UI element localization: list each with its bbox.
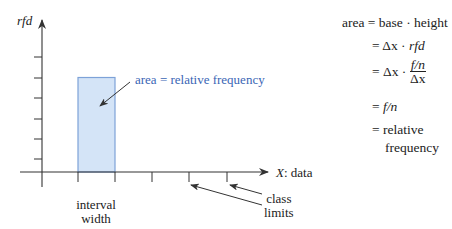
fraction: f/nΔx — [410, 58, 426, 85]
class-limit-arrow-1 — [191, 185, 262, 205]
interval-width-line2: width — [72, 212, 120, 226]
x-axis-label-rest: : data — [284, 165, 313, 180]
equation-lhs: area — [342, 15, 364, 30]
equation-row-1: area = base · height — [342, 15, 448, 31]
x-axis-ticks — [78, 172, 227, 182]
equation-base-height: base · height — [379, 15, 448, 30]
x-axis-label-var: X — [276, 165, 284, 180]
class-limits-label: class limits — [264, 192, 294, 220]
area-annotation: area = relative frequency — [135, 73, 265, 87]
class-limits-line2: limits — [264, 206, 294, 220]
interval-width-label: interval width — [72, 198, 120, 226]
x-axis-label: X: data — [276, 166, 312, 180]
equation-row-3: = Δx · f/nΔx — [372, 58, 426, 85]
histogram-bar — [78, 78, 115, 173]
class-limit-arrow-2 — [230, 185, 262, 194]
y-axis-ticks — [34, 57, 42, 159]
equation-row-6: frequency — [385, 140, 439, 156]
y-axis-label: rfd — [17, 14, 32, 28]
equation-row-2: = Δx · rfd — [372, 38, 425, 54]
interval-width-line1: interval — [72, 198, 120, 212]
equation-row-4: = f/n — [372, 99, 397, 115]
class-limits-line1: class — [264, 192, 294, 206]
equation-row-5: = relative — [372, 122, 423, 138]
